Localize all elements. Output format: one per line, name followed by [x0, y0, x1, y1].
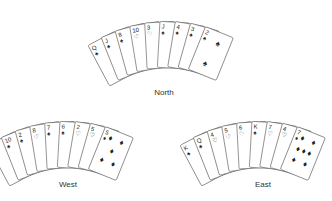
card-fan-north: Q♠J♠8♠10♡3♡J♠4♠3♠2♠♠♠	[105, 12, 230, 92]
heart-icon: ♡	[147, 31, 152, 37]
heart-icon: ♡	[75, 130, 81, 137]
label-north: North	[144, 88, 184, 97]
heart-icon: ♡	[133, 33, 139, 40]
heart-icon: ♡	[225, 133, 231, 140]
heart-icon: ♡	[33, 133, 39, 140]
heart-icon: ♡	[267, 130, 273, 137]
hand-north: Q♠J♠8♠10♡3♡J♠4♠3♠2♠♠♠	[105, 12, 230, 92]
label-east: East	[243, 180, 283, 189]
label-west: West	[48, 180, 88, 189]
heart-icon: ♡	[239, 131, 244, 137]
